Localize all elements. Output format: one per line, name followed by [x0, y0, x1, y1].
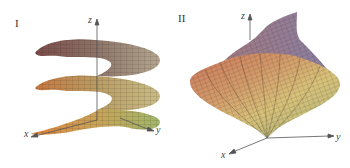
- axis-label-z: z: [241, 10, 245, 21]
- panel-ii: II: [175, 0, 350, 168]
- axis-label-x: x: [24, 128, 28, 139]
- panel-i: I: [0, 0, 175, 168]
- axis-label-y: y: [156, 124, 160, 135]
- axis-label-z: z: [88, 14, 92, 25]
- helicoid-surface-plot: [0, 0, 175, 168]
- spindle-surface-plot: [175, 0, 350, 168]
- axis-label-y: y: [336, 131, 340, 142]
- axis-label-x: x: [221, 149, 225, 160]
